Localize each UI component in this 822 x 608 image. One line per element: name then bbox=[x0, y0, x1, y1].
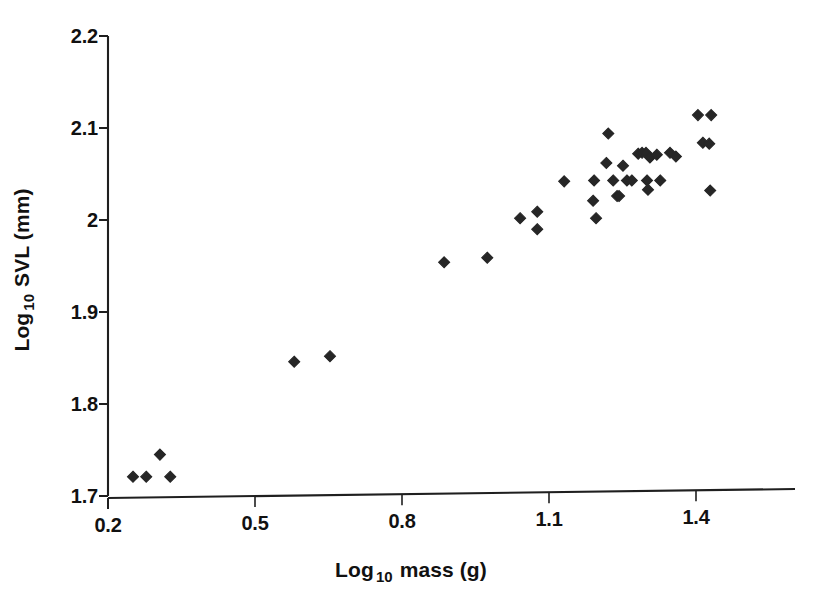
y-axis-title-rest: SVL (mm) bbox=[10, 188, 33, 292]
y-tick-label: 2.2 bbox=[38, 25, 98, 48]
x-axis-line bbox=[108, 489, 795, 498]
y-axis-title-subscript: 10 bbox=[20, 293, 37, 313]
axes bbox=[108, 36, 795, 498]
data-point-marker bbox=[532, 224, 543, 235]
y-tick-label: 1.8 bbox=[38, 393, 98, 416]
data-point-marker bbox=[588, 195, 599, 206]
x-axis-title-subscript: 10 bbox=[374, 568, 394, 585]
data-point-marker bbox=[532, 206, 543, 217]
y-tick-label: 2.1 bbox=[38, 117, 98, 140]
y-tick-label: 2 bbox=[38, 209, 98, 232]
data-point-marker bbox=[655, 175, 666, 186]
y-axis-title: Log10 SVL (mm) bbox=[10, 188, 34, 351]
y-axis-title-base: Log bbox=[10, 313, 33, 352]
data-point-marker bbox=[642, 184, 653, 195]
data-point-marker bbox=[559, 176, 570, 187]
y-tick-label: 1.7 bbox=[38, 485, 98, 508]
axis-ticks bbox=[99, 36, 696, 509]
data-point-marker bbox=[705, 185, 716, 196]
x-tick-label: 0.5 bbox=[241, 512, 268, 535]
y-tick-label: 1.9 bbox=[38, 301, 98, 324]
data-point-marker bbox=[165, 471, 176, 482]
data-point-marker bbox=[324, 351, 335, 362]
data-point-marker bbox=[439, 257, 450, 268]
data-point-marker bbox=[589, 175, 600, 186]
scatter-plot-figure: 1.71.81.922.12.2 0.20.50.81.11.4 Log10 m… bbox=[0, 0, 822, 608]
data-point-marker bbox=[289, 356, 300, 367]
data-point-marker bbox=[515, 213, 526, 224]
data-point-marker bbox=[692, 110, 703, 121]
data-point-marker bbox=[603, 128, 614, 139]
data-point-marker bbox=[642, 175, 653, 186]
data-point-marker bbox=[127, 471, 138, 482]
data-point-marker bbox=[617, 160, 628, 171]
x-tick-label: 1.1 bbox=[535, 508, 562, 531]
x-axis-title: Log10 mass (g) bbox=[335, 558, 487, 582]
data-points bbox=[127, 110, 716, 483]
x-axis-title-rest: mass (g) bbox=[394, 558, 487, 581]
data-point-marker bbox=[601, 157, 612, 168]
data-point-marker bbox=[591, 213, 602, 224]
x-tick-label: 0.8 bbox=[388, 510, 415, 533]
data-point-marker bbox=[706, 110, 717, 121]
data-point-marker bbox=[608, 175, 619, 186]
x-tick-label: 0.2 bbox=[94, 514, 121, 537]
data-point-marker bbox=[482, 252, 493, 263]
data-point-marker bbox=[141, 471, 152, 482]
x-tick-label: 1.4 bbox=[682, 506, 709, 529]
x-axis-title-base: Log bbox=[335, 558, 374, 581]
data-point-marker bbox=[154, 449, 165, 460]
